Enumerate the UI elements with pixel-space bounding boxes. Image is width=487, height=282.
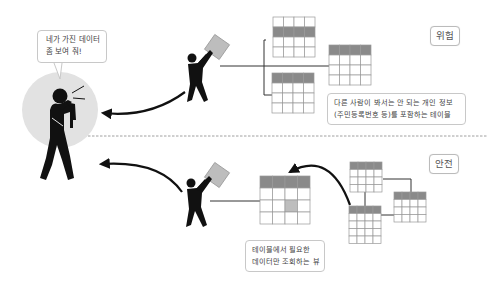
table-cell <box>374 185 382 193</box>
table-cell <box>373 236 381 244</box>
table-cell <box>272 93 283 103</box>
table-cell <box>340 55 351 65</box>
table-cell <box>349 229 357 237</box>
table-cell <box>284 17 295 27</box>
view-caption: 테이블에서 필요한 데이터만 조회하는 뷰 <box>245 240 325 272</box>
table-cell <box>329 45 340 55</box>
table-cell <box>366 170 374 178</box>
table-cell <box>349 206 357 214</box>
table-cell <box>361 55 372 65</box>
safe-table-3-icon <box>349 206 381 244</box>
table-cell <box>304 103 315 113</box>
table-cell <box>373 229 381 237</box>
table-cell <box>358 170 366 178</box>
danger-badge: 위험 <box>430 26 460 46</box>
table-cell <box>294 37 305 47</box>
table-cell <box>361 45 372 55</box>
table-cell <box>298 188 311 200</box>
table-cell <box>410 200 418 208</box>
table-cell <box>283 103 294 113</box>
speech-bubble: 네가 가진 데이터 좀 보여 줘! <box>37 30 107 63</box>
table-cell <box>357 206 365 214</box>
table-cell <box>329 65 340 75</box>
table-cell <box>298 176 311 188</box>
table-cell <box>418 215 426 223</box>
view-table-icon <box>260 176 310 224</box>
danger-carrier-person-icon <box>187 34 230 102</box>
table-cell <box>374 162 382 170</box>
table-cell <box>305 27 316 37</box>
table-cell <box>365 206 373 214</box>
safe-table-1-icon <box>350 162 382 192</box>
danger-table-3-icon <box>329 45 371 85</box>
table-cell <box>357 236 365 244</box>
table-cell <box>357 221 365 229</box>
table-cell <box>293 103 304 113</box>
table-cell <box>366 185 374 193</box>
table-cell <box>272 73 283 83</box>
safe-carrier-person-icon <box>186 162 230 227</box>
table-cell <box>298 200 311 212</box>
table-cell <box>365 229 373 237</box>
table-cell <box>273 188 286 200</box>
view-caption-line2: 데이터만 조회하는 뷰 <box>252 256 324 268</box>
danger-branch-connector <box>264 40 272 95</box>
table-cell <box>260 176 273 188</box>
table-cell <box>418 200 426 208</box>
table-cell <box>350 162 358 170</box>
table-cell <box>361 65 372 75</box>
table-cell <box>285 188 298 200</box>
table-cell <box>358 185 366 193</box>
table-cell <box>350 65 361 75</box>
table-cell <box>394 192 402 200</box>
table-cell <box>350 55 361 65</box>
table-cell <box>273 47 284 57</box>
table-cell <box>304 93 315 103</box>
table-cell <box>366 162 374 170</box>
table-cell <box>373 221 381 229</box>
table-cell <box>260 200 273 212</box>
table-cell <box>350 75 361 85</box>
table-cell <box>365 214 373 222</box>
table-cell <box>402 192 410 200</box>
table-cell <box>273 212 286 224</box>
table-cell <box>410 215 418 223</box>
speech-bubble-line1: 네가 가진 데이터 <box>46 34 106 46</box>
table-cell <box>329 55 340 65</box>
table-cell <box>284 47 295 57</box>
table-cell <box>374 170 382 178</box>
table-cell <box>273 200 286 212</box>
table-cell <box>402 200 410 208</box>
table-cell <box>410 192 418 200</box>
data-flow-arrow-safe <box>101 164 182 192</box>
table-cell <box>273 27 284 37</box>
table-cell <box>305 37 316 47</box>
table-cell <box>284 37 295 47</box>
table-cell <box>357 214 365 222</box>
table-cell <box>394 215 402 223</box>
table-cell <box>293 73 304 83</box>
table-cell <box>260 188 273 200</box>
danger-table-1-icon <box>273 17 315 57</box>
table-cell <box>304 73 315 83</box>
table-cell <box>365 221 373 229</box>
table-cell <box>298 212 311 224</box>
danger-table-2-icon <box>272 73 314 113</box>
table-cell <box>273 176 286 188</box>
table-cell <box>350 185 358 193</box>
table-cell <box>272 103 283 113</box>
table-cell <box>283 93 294 103</box>
table-cell <box>285 212 298 224</box>
table-cell <box>294 27 305 37</box>
table-cell <box>374 177 382 185</box>
table-cell <box>365 236 373 244</box>
danger-table-caption: 다른 사람이 봐서는 안 되는 개인 정보 (주민등록번호 등)를 포함하는 테… <box>327 93 466 125</box>
table-cell <box>361 75 372 85</box>
table-cell <box>273 37 284 47</box>
table-cell <box>373 214 381 222</box>
table-cell <box>272 83 283 93</box>
table-cell <box>394 200 402 208</box>
table-cell <box>418 192 426 200</box>
view-caption-line1: 테이블에서 필요한 <box>252 244 324 256</box>
table-cell <box>283 83 294 93</box>
